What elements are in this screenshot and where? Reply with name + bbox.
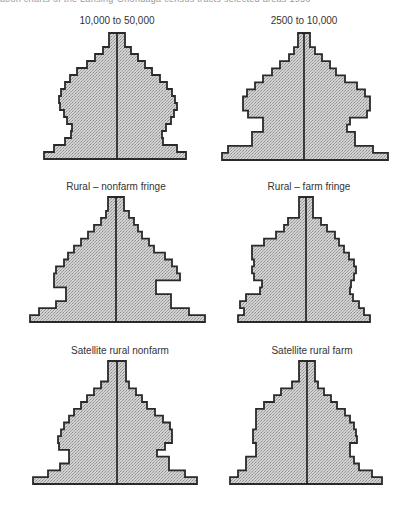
pyramid-shape <box>238 197 370 322</box>
pyramid-satellite-rural-farm <box>230 361 382 484</box>
pyramid-10000-50000 <box>44 33 186 159</box>
pyramid-shape <box>33 361 197 484</box>
pyramid-rural-nonfarm-fringe <box>30 197 205 322</box>
pyramid-2500-10000 <box>222 33 388 160</box>
pyramid-rural-farm-fringe <box>238 197 370 322</box>
pyramid-shape <box>222 33 388 160</box>
pyramid-satellite-rural-nonfarm <box>33 361 197 484</box>
pyramid-shape <box>44 33 186 159</box>
pyramid-shape <box>30 197 205 322</box>
pyramids-canvas <box>0 0 410 509</box>
pyramid-shape <box>230 361 382 484</box>
